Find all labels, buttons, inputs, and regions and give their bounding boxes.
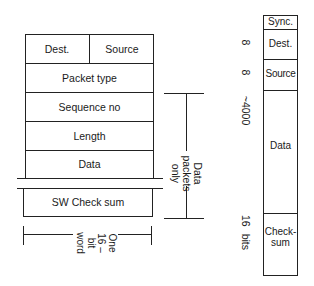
size-label-checksum: 16 bits bbox=[240, 208, 251, 258]
label-line: Data bbox=[192, 141, 203, 207]
row-divider bbox=[263, 213, 298, 214]
field-dest: Dest. bbox=[264, 38, 297, 49]
field-source: Source bbox=[264, 68, 297, 79]
row-divider bbox=[263, 59, 298, 60]
label-line: sum bbox=[264, 237, 297, 248]
size-label-dest: 8 bbox=[240, 33, 251, 53]
label-line: only bbox=[170, 141, 181, 207]
field-dest: Dest. bbox=[25, 34, 89, 63]
field-packet-type: Packet type bbox=[25, 63, 154, 92]
field-source: Source bbox=[90, 34, 154, 63]
width-bracket-line-right bbox=[118, 234, 151, 235]
frame-border-right bbox=[297, 15, 298, 275]
field-checksum: Check- sum bbox=[264, 226, 297, 248]
size-label-data: ~4000 bbox=[240, 86, 251, 136]
label-line: packets bbox=[181, 141, 192, 207]
width-bracket-left bbox=[23, 226, 24, 245]
field-length: Length bbox=[25, 121, 154, 150]
row-divider bbox=[263, 29, 298, 30]
field-data: Data bbox=[25, 150, 154, 178]
frame-bottom bbox=[263, 275, 298, 276]
label-line: bit bbox=[86, 223, 97, 263]
field-sequence-no: Sequence no bbox=[25, 92, 154, 121]
bracket-top bbox=[164, 93, 204, 94]
one-16-bit-word-label: One 16 – bit word bbox=[73, 223, 117, 263]
label-line: word bbox=[75, 223, 86, 263]
size-label-source: 8 bbox=[240, 63, 251, 83]
data-packets-only-label: Data packets only bbox=[170, 141, 203, 207]
field-sw-checksum: SW Check sum bbox=[23, 188, 153, 216]
width-bracket-line-left bbox=[23, 234, 73, 235]
bracket-bottom bbox=[164, 218, 204, 219]
row-divider bbox=[263, 90, 298, 91]
width-bracket-right bbox=[151, 226, 152, 245]
checksum-border-bottom bbox=[23, 216, 153, 217]
label-line: One bbox=[107, 223, 118, 263]
field-data: Data bbox=[264, 140, 297, 151]
break-line-top bbox=[17, 178, 163, 179]
label-line: 16 – bbox=[96, 223, 107, 263]
field-sync: Sync. bbox=[264, 16, 297, 27]
label-line: Check- bbox=[264, 226, 297, 237]
